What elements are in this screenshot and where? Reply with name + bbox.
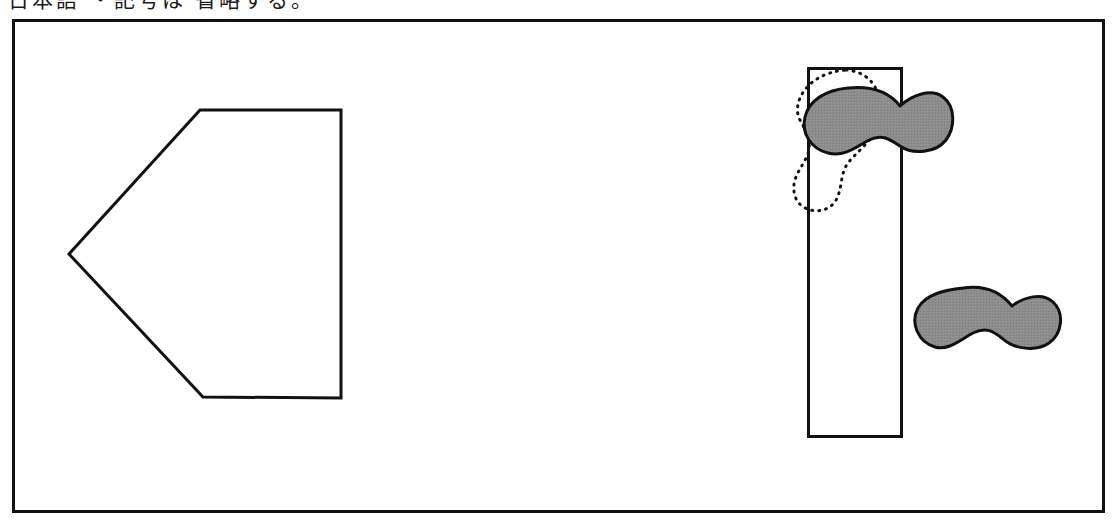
pentagon-left-pointing bbox=[69, 110, 341, 398]
figure-canvas: 日本語 ・記号は 省略する。 bbox=[0, 0, 1117, 528]
gray-blob-upper bbox=[804, 88, 953, 154]
gray-blob-lower bbox=[915, 287, 1061, 348]
diagram-svg bbox=[0, 0, 1117, 528]
